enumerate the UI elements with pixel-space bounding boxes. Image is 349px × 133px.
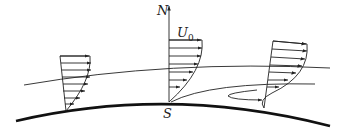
normal-axis-label: N — [157, 4, 168, 17]
separation-point-label: S — [163, 107, 172, 120]
upstream-profile — [60, 56, 91, 111]
free-stream-subscript: 0 — [188, 33, 194, 43]
wall-surface — [16, 104, 330, 126]
boundary-layer-diagram — [0, 0, 349, 133]
streamline-upper — [24, 66, 330, 85]
free-stream-symbol: U — [177, 25, 188, 40]
recirculation-streamline — [228, 90, 262, 100]
downstream-profile — [262, 41, 307, 108]
free-stream-velocity-label: U0 — [177, 26, 194, 43]
separation-profile — [169, 6, 202, 102]
